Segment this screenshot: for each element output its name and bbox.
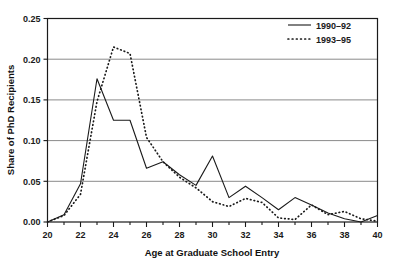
y-tick-label: 0.25 xyxy=(23,14,41,24)
y-tick-label: 0.15 xyxy=(23,95,41,105)
x-tick-label: 28 xyxy=(174,230,184,240)
y-axis-title: Share of PhD Recipients xyxy=(5,65,16,175)
x-tick-label: 40 xyxy=(372,230,382,240)
x-tick-label: 26 xyxy=(141,230,151,240)
x-tick-label: 36 xyxy=(306,230,316,240)
x-tick-label: 30 xyxy=(207,230,217,240)
x-axis-title: Age at Graduate School Entry xyxy=(145,247,280,258)
legend-label-1: 1993–95 xyxy=(316,35,351,45)
y-tick-label: 0.20 xyxy=(23,55,41,65)
line-chart: 2022242628303234363840 0.000.050.100.150… xyxy=(0,0,393,267)
y-tick-label: 0.10 xyxy=(23,136,41,146)
x-tick-label: 24 xyxy=(108,230,118,240)
legend-label-0: 1990–92 xyxy=(316,21,351,31)
x-tick-label: 38 xyxy=(339,230,349,240)
x-tick-label: 34 xyxy=(273,230,283,240)
y-tick-label: 0.00 xyxy=(23,217,41,227)
x-tick-label: 22 xyxy=(75,230,85,240)
x-tick-label: 20 xyxy=(42,230,52,240)
x-tick-label: 32 xyxy=(240,230,250,240)
chart-figure: 2022242628303234363840 0.000.050.100.150… xyxy=(0,0,393,267)
y-tick-label: 0.05 xyxy=(23,177,41,187)
